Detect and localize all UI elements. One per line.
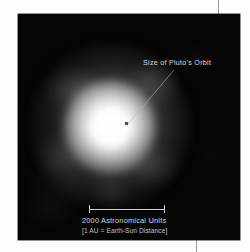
nebula-irregular-lobes [36,50,186,202]
crop-mark-rule-top [218,0,219,15]
nebula-outer-halo [30,44,190,209]
scale-bar-tick-right [164,205,165,213]
scale-bar-line [89,209,165,210]
nebula-central-kernel [90,106,132,148]
scale-caption-primary: 2000 Astronomical Units [82,216,240,226]
crop-mark-rule-bottom [196,240,197,252]
astronomical-image-panel: Size of Pluto's Orbit 2000 Astronomical … [18,14,240,240]
orbit-size-label: Size of Pluto's Orbit [143,58,211,67]
scale-bar-tick-left [89,205,90,213]
scale-caption: 2000 Astronomical Units [1 AU = Earth-Su… [82,216,240,235]
scale-bar [89,205,165,213]
scale-caption-secondary: [1 AU = Earth-Sun Distance] [82,226,240,236]
nebula-bright-core [64,80,156,174]
page-background: Size of Pluto's Orbit 2000 Astronomical … [0,0,250,252]
orbit-scale-marker-dot [125,122,128,125]
